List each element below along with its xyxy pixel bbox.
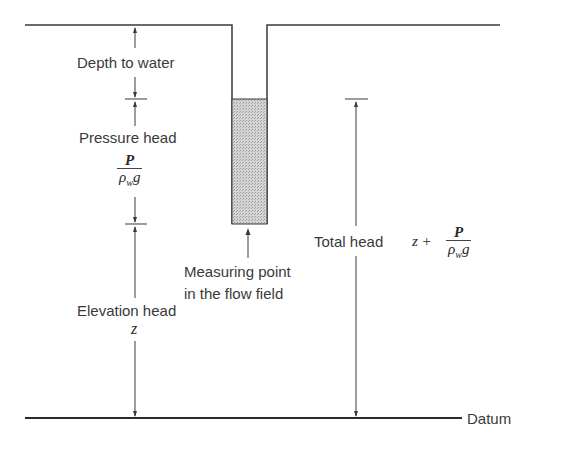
elevation-head-label: Elevation head xyxy=(77,302,176,320)
measuring-point-arrow xyxy=(246,228,251,258)
measuring-point-line1: Measuring point xyxy=(184,263,291,281)
pressure-head-formula: P ρwg xyxy=(117,152,142,191)
depth-to-water-label: Depth to water xyxy=(77,54,175,72)
total-head-formula: P ρwg xyxy=(446,224,471,263)
measuring-point-label: Measuring point in the flow field xyxy=(184,263,291,303)
water-column xyxy=(232,99,267,224)
measuring-point-line2: in the flow field xyxy=(184,285,291,303)
datum-label: Datum xyxy=(467,410,511,428)
elevation-head-symbol: z xyxy=(131,320,137,338)
total-head-numerator: P xyxy=(452,224,465,240)
total-head-label: Total head xyxy=(314,233,383,251)
pressure-head-label: Pressure head xyxy=(79,129,177,147)
total-head-dimension-line xyxy=(345,99,368,417)
total-head-denominator: ρwg xyxy=(446,241,471,263)
pressure-head-denominator: ρwg xyxy=(117,169,142,191)
left-dimension-line xyxy=(125,27,147,417)
total-head-prefix: z + xyxy=(412,233,432,250)
hydraulic-head-diagram: Depth to water Pressure head P ρwg Measu… xyxy=(0,0,584,451)
pressure-head-numerator: P xyxy=(123,152,136,168)
